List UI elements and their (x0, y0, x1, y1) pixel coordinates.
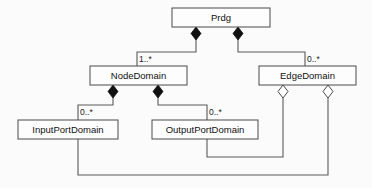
class-name-edgedomain: EdgeDomain (280, 70, 335, 81)
multiplicity-nodedomain-inputportdomain: 0..* (80, 107, 93, 117)
class-box-inputportdomain[interactable]: InputPortDomain (18, 120, 118, 139)
aggregation-diamond-edgedomain-outputportdomain (278, 85, 288, 98)
composition-diamond-nodedomain-inputportdomain (108, 85, 118, 98)
class-name-prdg: Prdg (211, 12, 231, 23)
class-box-prdg[interactable]: Prdg (172, 8, 270, 27)
composition-diamond-prdg-nodedomain (191, 27, 201, 40)
class-box-nodedomain[interactable]: NodeDomain (90, 66, 187, 85)
class-name-outputportdomain: OutputPortDomain (166, 124, 245, 135)
class-name-inputportdomain: InputPortDomain (32, 124, 103, 135)
multiplicity-prdg-nodedomain: 1..* (139, 54, 152, 64)
diagram-canvas: Prdg NodeDomain EdgeDomain InputPortDoma… (0, 0, 372, 188)
composition-diamond-prdg-edgedomain (233, 27, 243, 40)
class-name-nodedomain: NodeDomain (111, 70, 166, 81)
uml-class-diagram: Prdg NodeDomain EdgeDomain InputPortDoma… (0, 0, 372, 188)
connector-prdg-edgedomain (238, 40, 305, 66)
multiplicity-nodedomain-outputportdomain: 0..* (209, 107, 222, 117)
class-box-edgedomain[interactable]: EdgeDomain (259, 66, 356, 85)
connector-nodedomain-outputportdomain (158, 98, 207, 120)
multiplicity-prdg-edgedomain: 0..* (307, 54, 320, 64)
class-box-outputportdomain[interactable]: OutputPortDomain (152, 120, 258, 139)
composition-diamond-nodedomain-outputportdomain (153, 85, 163, 98)
aggregation-diamond-edgedomain-inputportdomain (323, 85, 333, 98)
